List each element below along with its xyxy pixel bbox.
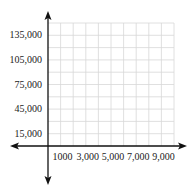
y-tick-label: 15,000 [0, 128, 42, 139]
x-tick-label: 9,000 [148, 151, 178, 162]
grid-lines [48, 23, 174, 146]
y-tick-label: 75,000 [0, 79, 42, 90]
y-tick-label: 45,000 [0, 103, 42, 114]
y-tick-label: 105,000 [0, 54, 42, 65]
y-tick-label: 135,000 [0, 29, 42, 40]
